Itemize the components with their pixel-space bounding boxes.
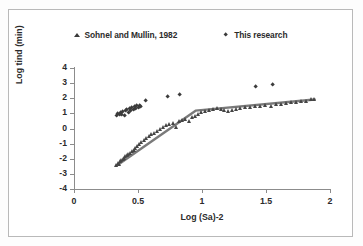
y-tick: -2	[70, 159, 74, 160]
x-tick: 0.5	[138, 189, 139, 193]
y-axis-label: Log tind (min)	[14, 25, 24, 84]
y-tick-label: 4	[62, 62, 67, 72]
x-tick-label: 0	[72, 196, 77, 206]
y-tick: -1	[70, 144, 74, 145]
y-tick-label: 2	[62, 92, 67, 102]
diamond-marker-icon	[223, 32, 230, 39]
y-tick: 0	[70, 129, 74, 130]
y-tick: 4	[70, 68, 74, 69]
x-tick-label: 1	[200, 196, 205, 206]
y-tick: 1	[70, 113, 74, 114]
x-tick-label: 0.5	[132, 196, 144, 206]
x-tick-label: 1.5	[260, 196, 272, 206]
y-tick-label: -3	[59, 168, 67, 178]
y-tick-label: -4	[59, 183, 67, 193]
x-tick-label: 2	[328, 196, 333, 206]
y-tick-label: -1	[59, 138, 67, 148]
y-tick: -3	[70, 174, 74, 175]
x-tick: 1.5	[266, 189, 267, 193]
y-tick: 3	[70, 83, 74, 84]
chart-legend: Sohnel and Mullin, 1982 This research	[8, 27, 353, 43]
y-tick: 2	[70, 98, 74, 99]
y-tick-label: 0	[62, 123, 67, 133]
plot-area: -4-3-2-101234 00.511.52	[74, 68, 330, 189]
y-tick-label: 1	[62, 107, 67, 117]
x-axis-label: Log (Sa)-2	[74, 212, 330, 222]
x-tick: 1	[202, 189, 203, 193]
triangle-marker-icon	[74, 32, 81, 39]
legend-label-this-research: This research	[234, 30, 287, 40]
x-tick: 0	[74, 189, 75, 193]
y-tick-label: 3	[62, 77, 67, 87]
legend-entry-sohnel: Sohnel and Mullin, 1982	[74, 30, 178, 40]
legend-entry-this-research: This research	[223, 30, 287, 40]
legend-label-sohnel: Sohnel and Mullin, 1982	[85, 30, 178, 40]
trend-line	[74, 68, 330, 189]
y-tick-label: -2	[59, 153, 67, 163]
chart-figure: Sohnel and Mullin, 1982 This research Lo…	[0, 0, 363, 246]
x-tick: 2	[330, 189, 331, 193]
